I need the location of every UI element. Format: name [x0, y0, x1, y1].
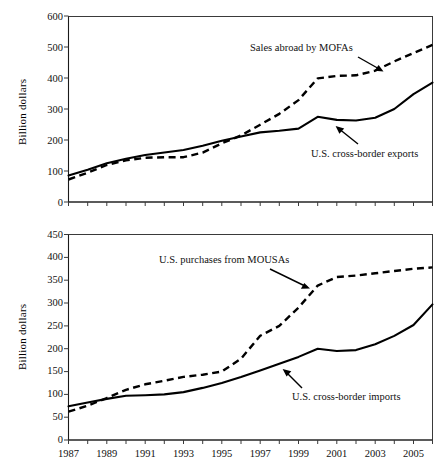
top-y-tick: 0 — [58, 197, 63, 208]
bottom-x-tick: 1987 — [58, 448, 79, 459]
bottom-y-axis-title: Billion dollars — [16, 304, 28, 370]
top-y-tick-labels: 600 500 400 300 200 100 0 — [47, 11, 63, 208]
bottom-y-tick: 150 — [47, 365, 63, 376]
chart-panel-top: Billion dollars 600 500 400 300 200 100 … — [0, 0, 448, 232]
bottom-y-tick: 200 — [47, 343, 63, 354]
bottom-y-tick: 250 — [47, 320, 63, 331]
bottom-y-tick-labels: 450 400 350 300 250 200 150 100 50 0 — [47, 229, 63, 445]
top-annotation-mofa-label: Sales abroad by MOFAs — [250, 42, 353, 53]
top-annotation-exports-arrow — [336, 126, 358, 144]
bottom-y-ticks — [64, 235, 69, 441]
top-x-ticks — [69, 202, 433, 206]
bottom-chart-svg: Billion dollars 450 400 350 300 250 200 … — [0, 225, 448, 474]
bottom-x-tick: 1995 — [211, 448, 232, 459]
bottom-x-tick: 1991 — [135, 448, 156, 459]
top-y-tick: 400 — [47, 73, 63, 84]
bottom-x-tick: 2001 — [326, 448, 347, 459]
top-annotation-mofa-arrow — [358, 57, 384, 72]
top-y-tick: 100 — [47, 166, 63, 177]
bottom-x-tick: 1993 — [173, 448, 194, 459]
bottom-annotation-mousa-label: U.S. purchases from MOUSAs — [159, 254, 289, 265]
bottom-plot-frame — [69, 235, 433, 441]
top-y-tick: 600 — [47, 11, 63, 22]
top-y-ticks — [64, 16, 69, 202]
top-chart-svg: Billion dollars 600 500 400 300 200 100 … — [0, 0, 448, 232]
bottom-y-tick: 400 — [47, 251, 63, 262]
top-y-tick: 200 — [47, 135, 63, 146]
bottom-x-tick: 1999 — [288, 448, 309, 459]
top-y-tick: 300 — [47, 104, 63, 115]
top-y-axis-title: Billion dollars — [16, 79, 28, 145]
bottom-y-tick: 0 — [58, 434, 63, 445]
bottom-y-tick: 300 — [47, 297, 63, 308]
bottom-y-tick: 450 — [47, 229, 63, 240]
bottom-x-tick: 2003 — [365, 448, 386, 459]
bottom-x-tick: 1989 — [96, 448, 117, 459]
top-y-tick: 500 — [47, 42, 63, 53]
two-panel-line-chart-figure: Billion dollars 600 500 400 300 200 100 … — [0, 0, 448, 474]
bottom-y-tick: 100 — [47, 388, 63, 399]
bottom-annotation-imports-label: U.S. cross-border imports — [292, 391, 401, 402]
chart-panel-bottom: Billion dollars 450 400 350 300 250 200 … — [0, 225, 448, 474]
bottom-x-tick-labels: 1987 1989 1991 1993 1995 1997 1999 2001 … — [58, 448, 424, 459]
bottom-y-tick: 350 — [47, 274, 63, 285]
bottom-annotation-mousa-arrow — [270, 269, 310, 289]
bottom-x-ticks — [69, 440, 433, 444]
bottom-x-tick: 2005 — [403, 448, 424, 459]
bottom-annotation-imports-arrow — [283, 369, 302, 388]
top-annotation-exports-label: U.S. cross-border exports — [311, 148, 418, 159]
bottom-axes — [69, 235, 433, 441]
bottom-y-tick: 50 — [53, 411, 64, 422]
bottom-x-tick: 1997 — [250, 448, 271, 459]
